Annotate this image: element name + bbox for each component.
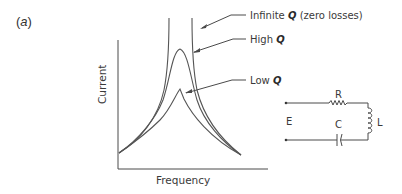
leader-lines	[185, 15, 246, 93]
capacitor-label: C	[335, 119, 342, 130]
label-high-q: High Q	[250, 34, 285, 45]
arrowhead-icon	[193, 48, 200, 53]
curve-low-q	[119, 89, 241, 155]
label-low-q: Low Q	[250, 75, 282, 86]
resistor-icon	[329, 101, 347, 106]
arrowhead-icon	[200, 24, 207, 29]
rlc-circuit	[285, 101, 372, 147]
panel-label: (a)	[16, 14, 32, 29]
arrowhead-icon	[185, 89, 192, 93]
inductor-icon	[368, 108, 372, 133]
x-axis-label: Frequency	[156, 174, 210, 186]
resonance-diagram: (a) Current Frequency Infinite Q (zero l…	[0, 0, 402, 194]
source-label: E	[286, 116, 292, 127]
resonance-curves	[119, 18, 241, 155]
inductor-label: L	[377, 117, 383, 128]
y-axis-label: Current	[96, 65, 108, 104]
label-infinite-q: Infinite Q (zero losses)	[250, 10, 363, 21]
leader-high-q	[194, 39, 246, 52]
resistor-label: R	[335, 89, 342, 100]
leader-infinite-q	[202, 15, 246, 28]
curve-infinite-q	[119, 18, 241, 155]
